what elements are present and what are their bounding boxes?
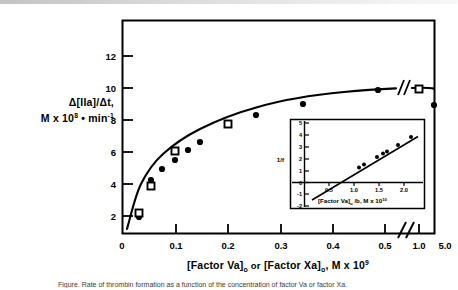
data-point-circle — [159, 166, 165, 172]
inset-y-label-1: 1 — [299, 168, 302, 174]
x-tick-label-0.3: 0.3 — [274, 240, 287, 251]
figure-container: 12 10 8 6 4 2 0 0.1 0.2 0.3 0.4 — [0, 0, 458, 290]
y-tick-label-2: 2 — [111, 211, 116, 222]
y-tick-label-4: 4 — [111, 179, 117, 190]
inset-y-label-neg1: -1 — [297, 191, 302, 197]
inset-data-point — [385, 150, 389, 154]
data-point-square — [148, 183, 155, 190]
inset-y-label-0: 0 — [299, 180, 302, 186]
x-tick-label-0: 0 — [119, 240, 124, 251]
inset-x-label-2.0: 2.0 — [400, 187, 408, 193]
figure-caption: Figure. Rate of thrombin formation as a … — [58, 281, 403, 288]
xlabel-conj-text: or — [251, 260, 261, 271]
y-axis-title-line2: M x 108 • min-1 — [41, 112, 114, 124]
chart-svg: 12 10 8 6 4 2 0 0.1 0.2 0.3 0.4 — [0, 0, 458, 290]
inset-y-axis-title: 1/f — [277, 156, 285, 163]
ylabel2-lead: M x 10 — [41, 112, 74, 124]
inset-y-label-neg2: -2 — [297, 203, 302, 209]
inset-data-point — [381, 152, 385, 156]
data-point-circle — [431, 102, 437, 108]
ylabel-t: t, — [107, 96, 114, 108]
data-point-circle — [253, 112, 259, 118]
inset-data-point — [357, 166, 361, 170]
inset-plot: 5 4 3 2 1 0 -1 -2 0.5 1.0 1.5 2. — [277, 120, 425, 210]
x-tick-label-0.2: 0.2 — [221, 240, 234, 251]
inset-y-label-5: 5 — [299, 120, 302, 126]
data-point-circle — [172, 157, 178, 163]
y-tick-label-6: 6 — [111, 147, 116, 158]
x-tick-labels: 0 0.1 0.2 0.3 0.4 0.5 1.0 5.0 — [119, 240, 451, 251]
inset-x-label-1.5: 1.5 — [375, 187, 383, 193]
inset-data-point — [409, 135, 413, 139]
ylabel2-exp2: -1 — [108, 112, 114, 119]
x-tick-label-0.1: 0.1 — [169, 240, 183, 251]
xlabel-text-2: Factor Xa — [268, 259, 318, 271]
y-axis-title-line1: Δ[IIa]/Δt, — [69, 96, 114, 108]
data-point-square — [136, 210, 143, 217]
data-point-circle — [197, 139, 203, 145]
data-point-square — [416, 86, 423, 93]
inset-y-label-2: 2 — [299, 156, 302, 162]
x-axis-title: [Factor Va]o or [Factor Xa]o, M x 109 — [187, 259, 369, 274]
data-point-square — [225, 121, 232, 128]
x-tick-label-0.5: 0.5 — [378, 240, 392, 251]
data-point-circle — [375, 87, 381, 93]
inset-xlabel-tail: /b, M x 10 — [353, 197, 383, 204]
y-tick-label-12: 12 — [105, 51, 116, 62]
y-tick-labels: 12 10 8 6 4 2 — [105, 51, 116, 222]
xlabel-tail: , M x 10 — [325, 259, 365, 271]
inset-data-point — [362, 163, 366, 167]
xlabel-text-1: Factor Va — [191, 259, 240, 271]
inset-xlabel-text: Factor Va — [320, 197, 348, 204]
inset-y-label-3: 3 — [299, 144, 302, 150]
ylabel-species: IIa — [80, 96, 92, 108]
inset-border — [291, 120, 425, 209]
x-tick-label-5.0: 5.0 — [438, 240, 451, 251]
data-point-circle — [185, 147, 191, 153]
data-point-square — [172, 148, 179, 155]
xlabel-exp: 9 — [365, 259, 369, 266]
inset-xlabel-exp: 10 — [382, 197, 387, 202]
data-point-circle — [300, 101, 306, 107]
inset-x-label-1.0: 1.0 — [350, 187, 358, 193]
inset-data-point — [375, 155, 379, 159]
x-tick-label-0.4: 0.4 — [326, 240, 340, 251]
y-tick-label-10: 10 — [105, 83, 116, 94]
ylabel2-dot: • min — [78, 112, 107, 124]
x-tick-label-1.0: 1.0 — [412, 240, 425, 251]
inset-data-point — [396, 143, 400, 147]
